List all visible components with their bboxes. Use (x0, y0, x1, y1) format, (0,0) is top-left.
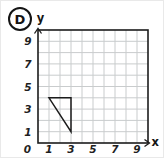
x-tick-label: 5 (89, 143, 96, 155)
x-tick-label: 1 (45, 143, 52, 155)
y-tick-label: 1 (24, 126, 31, 138)
x-tick-label: 7 (111, 143, 119, 155)
y-axis-label: y (37, 11, 45, 25)
y-tick-label: 7 (24, 58, 32, 70)
x-tick-label: 3 (67, 143, 74, 155)
x-tick-label: 0 (24, 143, 31, 155)
x-tick-label: 9 (133, 143, 140, 155)
answer-option-card[interactable]: D y 01357913579 x (0, 0, 164, 158)
grid-lines-layer (38, 30, 148, 143)
y-tick-label: 3 (24, 103, 31, 115)
x-axis-label: x (152, 135, 160, 149)
axis-layer (35, 29, 150, 147)
y-tick-label: 5 (24, 81, 31, 93)
coordinate-grid-figure: y 01357913579 x (0, 0, 164, 158)
y-tick-label: 9 (24, 35, 31, 47)
